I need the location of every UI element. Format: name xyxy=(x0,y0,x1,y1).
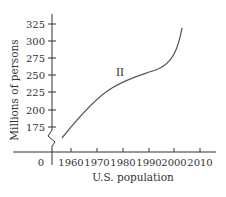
y-tick-250: 250 xyxy=(26,70,45,81)
chart: 325 300 275 250 225 200 175 0 1960 1970 … xyxy=(0,0,226,197)
y-tick-175: 175 xyxy=(26,122,45,133)
x-tick-1990: 1990 xyxy=(136,157,161,168)
y-tick-275: 275 xyxy=(26,53,45,64)
series-ii-line xyxy=(62,28,182,138)
y-axis-title: Millions of persons xyxy=(8,39,20,140)
y-tick-225: 225 xyxy=(26,87,45,98)
x-tick-2000: 2000 xyxy=(161,157,186,168)
y-tick-325: 325 xyxy=(26,19,45,30)
series-label-ii: II xyxy=(116,65,124,79)
x-ticks xyxy=(71,148,200,152)
y-axis-break xyxy=(48,130,55,165)
y-tick-200: 200 xyxy=(26,105,45,116)
y-tick-300: 300 xyxy=(26,36,45,47)
x-tick-2010: 2010 xyxy=(187,157,212,168)
x-axis-title: U.S. population xyxy=(92,171,174,183)
x-tick-1980: 1980 xyxy=(110,157,135,168)
x-tick-1960: 1960 xyxy=(58,157,83,168)
x-tick-0: 0 xyxy=(38,157,44,168)
x-tick-1970: 1970 xyxy=(84,157,109,168)
